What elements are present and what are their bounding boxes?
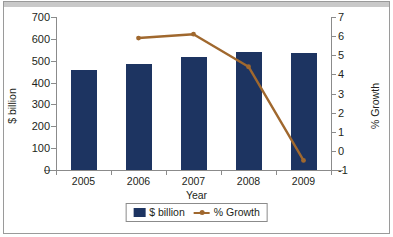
legend-label-bar: $ billion xyxy=(149,206,185,218)
right-axis-tick xyxy=(331,113,336,114)
right-axis-tick-label: 7 xyxy=(338,12,344,23)
left-axis-tick-label: 400 xyxy=(32,77,50,88)
right-axis-tick-label: 6 xyxy=(338,31,344,42)
line-marker xyxy=(301,158,306,163)
plot-area xyxy=(56,17,331,170)
line-marker xyxy=(246,64,251,69)
x-axis-tick-label: 2005 xyxy=(72,175,95,187)
x-axis-tick-mark xyxy=(56,171,57,175)
right-axis-tick-label: 0 xyxy=(338,145,344,156)
chart-figure: 0100200300400500600700 -101234567 200520… xyxy=(0,0,393,237)
left-axis-tick-label: 0 xyxy=(44,165,50,176)
legend-item-bar: $ billion xyxy=(133,206,185,218)
x-axis-tick-mark xyxy=(331,171,332,175)
x-axis-title: Year xyxy=(0,189,393,201)
legend-bar-swatch-icon xyxy=(133,208,145,217)
right-axis-title: % Growth xyxy=(369,83,381,129)
right-axis-tick-label: 5 xyxy=(338,50,344,61)
right-axis-tick-label: 1 xyxy=(338,126,344,137)
right-axis-tick xyxy=(331,17,336,18)
left-axis-tick-label: 300 xyxy=(32,99,50,110)
legend-label-line: % Growth xyxy=(214,206,260,218)
right-axis-tick xyxy=(331,132,336,133)
x-axis-tick-label: 2009 xyxy=(292,175,315,187)
line-series xyxy=(56,17,331,170)
chart-legend: $ billion % Growth xyxy=(125,203,268,222)
right-axis-tick-label: 2 xyxy=(338,107,344,118)
right-axis-tick xyxy=(331,94,336,95)
right-axis-tick-label: 3 xyxy=(338,88,344,99)
left-axis-tick-label: 500 xyxy=(32,55,50,66)
right-axis-tick xyxy=(331,74,336,75)
right-axis-tick-label: 4 xyxy=(338,69,344,80)
x-axis-tick-mark xyxy=(221,171,222,175)
left-axis-title: $ billion xyxy=(6,88,18,124)
left-axis-tick-label: 100 xyxy=(32,143,50,154)
left-axis-tick-label: 200 xyxy=(32,121,50,132)
line-path xyxy=(139,34,304,160)
x-axis-tick-mark xyxy=(166,171,167,175)
legend-line-swatch-icon xyxy=(194,208,210,217)
x-axis-tick-label: 2008 xyxy=(237,175,260,187)
x-axis-tick-label: 2007 xyxy=(182,175,205,187)
x-axis-tick-mark xyxy=(111,171,112,175)
x-axis-tick-mark xyxy=(276,171,277,175)
right-axis-tick xyxy=(331,151,336,152)
right-axis-tick xyxy=(331,36,336,37)
legend-item-line: % Growth xyxy=(194,206,260,218)
right-axis-tick xyxy=(331,55,336,56)
x-axis-line xyxy=(44,170,343,171)
frame-top-bar xyxy=(4,2,389,7)
left-axis-tick-label: 600 xyxy=(32,33,50,44)
x-axis-tick-label: 2006 xyxy=(127,175,150,187)
line-marker xyxy=(136,36,141,41)
line-marker xyxy=(191,32,196,37)
left-axis-tick-label: 700 xyxy=(32,12,50,23)
right-axis-tick-label: -1 xyxy=(338,165,348,176)
